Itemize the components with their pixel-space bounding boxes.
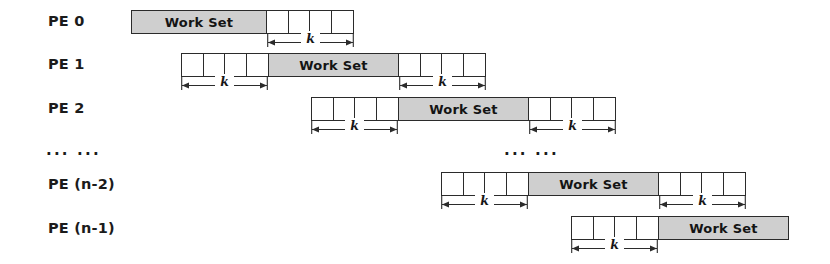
dimension-arrow-right-row-1: k <box>399 77 486 93</box>
cell <box>594 98 615 120</box>
cell-group-right-row-1 <box>399 53 486 77</box>
cell <box>247 54 268 76</box>
cell <box>182 54 204 76</box>
dimension-arrow-right-row-0: k <box>267 34 354 50</box>
workset-label: Work Set <box>299 58 367 73</box>
cell <box>312 98 334 120</box>
workset-label: Work Set <box>689 221 757 236</box>
cell <box>572 217 594 239</box>
row-label-ellipsis: ... ... <box>46 141 101 159</box>
row-label-5: PE (n-1) <box>48 220 115 236</box>
pe-strip-1: Work Set <box>181 53 486 77</box>
cell <box>399 54 421 76</box>
dimension-arrow-icon <box>399 77 486 93</box>
cell <box>355 98 377 120</box>
dimension-arrow-icon <box>441 196 528 212</box>
cell <box>659 173 681 195</box>
cell <box>377 98 398 120</box>
pe-strip-2: Work Set <box>311 97 616 121</box>
pe-workset-diagram: PE 0Work SetkPE 1Work SetkkPE 2Work Setk… <box>0 0 830 264</box>
cell-group-left-row-1 <box>181 53 268 77</box>
workset-label: Work Set <box>165 15 233 30</box>
dimension-arrow-icon <box>571 240 658 256</box>
workset-block-row-1: Work Set <box>268 53 399 77</box>
cell <box>681 173 703 195</box>
dimension-arrow-left-row-2: k <box>311 121 398 137</box>
dimension-arrow-left-row-1: k <box>181 77 268 93</box>
workset-label: Work Set <box>429 102 497 117</box>
cell-group-right-row-0 <box>267 10 354 34</box>
cell <box>442 173 464 195</box>
dimension-arrow-icon <box>267 34 354 50</box>
workset-block-row-4: Work Set <box>528 172 659 196</box>
dimension-arrow-icon <box>659 196 746 212</box>
cell <box>204 54 226 76</box>
cell <box>334 98 356 120</box>
cell <box>572 98 594 120</box>
cell <box>615 217 637 239</box>
cell <box>702 173 724 195</box>
cell <box>529 98 551 120</box>
dimension-arrow-right-row-2: k <box>529 121 616 137</box>
cell-group-left-row-2 <box>311 97 398 121</box>
cell <box>637 217 658 239</box>
cell <box>421 54 443 76</box>
dimension-arrow-left-row-5: k <box>571 240 658 256</box>
cell <box>485 173 507 195</box>
dimension-arrow-icon <box>311 121 398 137</box>
cell <box>464 54 485 76</box>
pe-strip-4: Work Set <box>441 172 746 196</box>
dimension-arrow-left-row-4: k <box>441 196 528 212</box>
cell <box>507 173 528 195</box>
cell-group-right-row-2 <box>529 97 616 121</box>
cell-group-left-row-4 <box>441 172 528 196</box>
cell <box>225 54 247 76</box>
cell-group-left-row-5 <box>571 216 658 240</box>
pe-strip-0: Work Set <box>131 10 354 34</box>
cell <box>724 173 745 195</box>
row-label-1: PE 1 <box>48 56 84 72</box>
dimension-arrow-icon <box>529 121 616 137</box>
center-ellipsis: ... ... <box>504 141 559 159</box>
cell <box>551 98 573 120</box>
cell <box>267 11 289 33</box>
row-label-2: PE 2 <box>48 100 84 116</box>
dimension-arrow-icon <box>181 77 268 93</box>
cell <box>594 217 616 239</box>
cell <box>310 11 332 33</box>
cell <box>289 11 311 33</box>
workset-block-row-0: Work Set <box>131 10 267 34</box>
row-label-4: PE (n-2) <box>48 176 115 192</box>
workset-block-row-2: Work Set <box>398 97 529 121</box>
row-label-0: PE 0 <box>48 13 84 29</box>
workset-block-row-5: Work Set <box>658 216 789 240</box>
pe-strip-5: Work Set <box>571 216 789 240</box>
dimension-arrow-right-row-4: k <box>659 196 746 212</box>
workset-label: Work Set <box>559 177 627 192</box>
cell <box>332 11 353 33</box>
cell <box>464 173 486 195</box>
cell <box>442 54 464 76</box>
cell-group-right-row-4 <box>659 172 746 196</box>
